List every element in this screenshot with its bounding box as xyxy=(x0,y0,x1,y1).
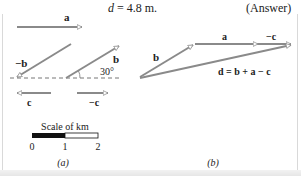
panel-a-label: (a) xyxy=(57,157,69,169)
vector-neg-b-label: −b xyxy=(15,57,27,69)
scale-title: Scale of km xyxy=(41,121,89,132)
figure-page: d = 4.8 m. (Answer) a −b b 30° c −c Scal… xyxy=(0,0,301,176)
scale-tick-2: 2 xyxy=(96,141,101,152)
vector-neg-c-label: −c xyxy=(89,97,100,108)
panel-a: a −b b 30° c −c Scale of km 0 1 2 (a) xyxy=(10,11,121,169)
scale-tick-0: 0 xyxy=(30,141,35,152)
panel-b-label: (b) xyxy=(207,157,219,169)
caption-strip xyxy=(0,170,301,176)
angle-arc xyxy=(79,71,81,78)
vector-diagram: a −b b 30° c −c Scale of km 0 1 2 (a) b xyxy=(0,0,301,176)
panel-b: b a −c d = b + a − c (b) xyxy=(140,31,291,169)
vector-a-label-b: a xyxy=(222,31,227,42)
vector-c-label: c xyxy=(27,97,32,108)
scale-bar-white xyxy=(65,133,98,138)
vector-b-label: b xyxy=(113,53,119,65)
angle-label: 30° xyxy=(100,66,114,77)
scale-bar-black xyxy=(32,133,65,138)
vector-a-label: a xyxy=(64,11,70,23)
vector-b-label-b: b xyxy=(153,51,159,63)
scale-tick-1: 1 xyxy=(63,141,68,152)
vector-neg-c-label-b: −c xyxy=(266,31,277,42)
resultant-d-label: d = b + a − c xyxy=(218,66,271,77)
